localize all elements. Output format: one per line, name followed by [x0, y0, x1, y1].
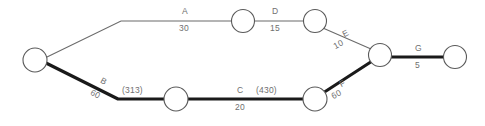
node-n4[interactable] — [369, 44, 392, 67]
node-n3[interactable] — [304, 10, 327, 33]
network-diagram: A 30 D 15 E 10 G 5 B 60 (313) C 20 (430)… — [0, 0, 485, 126]
node-n2[interactable] — [232, 10, 255, 33]
edge-g-name-label: G — [415, 44, 422, 53]
edge-a-name-label: A — [182, 7, 188, 16]
node-n5[interactable] — [444, 46, 467, 69]
edge-a-line — [47, 21, 232, 57]
edge-g-value-label: 5 — [415, 61, 420, 70]
node-n6[interactable] — [164, 87, 188, 111]
edge-a-value-label: 30 — [179, 24, 189, 33]
edge-c-name-label: C — [237, 86, 243, 95]
node-n7[interactable] — [303, 87, 327, 111]
edge-c-value-label: 20 — [235, 103, 245, 112]
edge-c-flow-label: (430) — [256, 86, 277, 95]
edge-d-value-label: 15 — [270, 24, 280, 33]
node-n1[interactable] — [23, 48, 47, 72]
edge-d-name-label: D — [272, 7, 278, 16]
edge-b-flow-label: (313) — [122, 86, 143, 95]
edge-f-line — [325, 62, 372, 93]
